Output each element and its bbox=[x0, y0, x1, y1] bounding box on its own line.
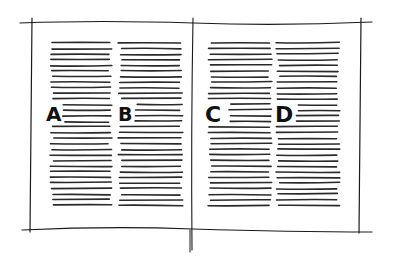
text-line bbox=[52, 188, 112, 189]
text-line bbox=[208, 59, 272, 60]
left-edge bbox=[30, 18, 32, 232]
top-edge bbox=[20, 22, 372, 25]
text-line bbox=[63, 105, 112, 106]
column-label-a: A bbox=[46, 104, 61, 124]
spread-sketch bbox=[0, 0, 395, 266]
text-line bbox=[51, 66, 112, 67]
text-line bbox=[276, 42, 339, 43]
text-line bbox=[212, 82, 272, 83]
text-line bbox=[278, 60, 337, 61]
spine bbox=[192, 18, 193, 250]
text-line bbox=[54, 161, 112, 162]
text-line bbox=[119, 205, 183, 206]
bottom-edge bbox=[22, 228, 372, 232]
column-label-c: C bbox=[205, 104, 221, 126]
text-line bbox=[122, 48, 181, 49]
column-label-b: B bbox=[118, 105, 132, 124]
right-edge bbox=[359, 18, 361, 233]
text-line bbox=[280, 182, 340, 183]
text-line bbox=[277, 53, 338, 54]
column-label-d: D bbox=[275, 104, 293, 126]
text-line bbox=[211, 143, 272, 144]
text-line bbox=[51, 87, 110, 88]
